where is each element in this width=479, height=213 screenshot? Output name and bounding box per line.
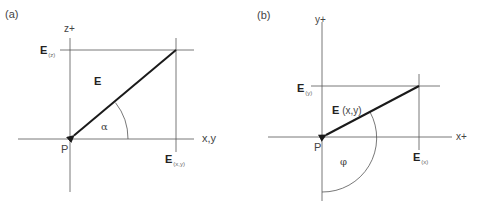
angle-phi-arc: [322, 112, 377, 192]
panel-b-tag: (b): [257, 10, 270, 21]
z-axis-label: z+: [64, 24, 75, 34]
xy-component-symbol: E: [165, 153, 172, 165]
y-component-symbol: E: [297, 82, 304, 94]
panel-a: [18, 38, 194, 192]
x-component-label: E(x): [413, 152, 428, 165]
xy-component-subscript: (x,y): [173, 161, 185, 167]
x-component-subscript: (x): [421, 159, 428, 165]
vector-exy-label: E (x,y): [332, 105, 362, 116]
origin-p-label-a: P: [61, 144, 68, 155]
y-axis-label: y+: [315, 15, 326, 25]
x-component-symbol: E: [413, 151, 420, 163]
panel-a-tag: (a): [5, 9, 18, 20]
y-component-label: E(y): [297, 83, 312, 96]
origin-p-label-b: P: [314, 142, 321, 153]
x-axis-label: x+: [456, 132, 467, 142]
y-component-subscript: (y): [305, 90, 312, 96]
vector-exy-symbol: E: [332, 104, 339, 116]
xy-component-label: E(x,y): [165, 154, 185, 167]
vector-exy-suffix: (x,y): [342, 105, 361, 116]
angle-alpha-label: α: [101, 122, 108, 132]
z-component-symbol: E: [40, 44, 47, 56]
angle-alpha-arc: [116, 103, 129, 139]
z-component-label: E(z): [40, 45, 55, 58]
vector-e-arrow: [74, 50, 176, 136]
xy-axis-label: x,y: [202, 133, 216, 144]
z-component-subscript: (z): [48, 52, 55, 58]
angle-phi-label: φ: [340, 157, 347, 167]
vector-e-label: E: [94, 76, 101, 87]
